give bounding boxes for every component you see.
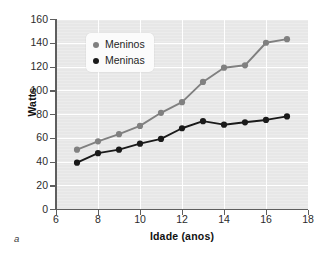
series-line-meninas: [77, 116, 287, 162]
data-point-meninos-14: [221, 65, 227, 71]
legend-item-meninos: Meninos: [93, 38, 145, 51]
data-point-meninas-17: [284, 113, 290, 119]
y-tick-label-140: 140: [22, 37, 48, 47]
gridline-x-18: [308, 19, 309, 209]
data-point-meninos-15: [242, 62, 248, 68]
data-point-meninas-15: [242, 119, 248, 125]
y-tick-20: [50, 185, 55, 186]
data-point-meninas-16: [263, 117, 269, 123]
x-tick-label-12: 12: [171, 214, 193, 225]
legend-label-meninas: Meninas: [105, 55, 145, 66]
legend-item-meninas: Meninas: [93, 54, 145, 67]
data-point-meninas-14: [221, 122, 227, 128]
x-axis-title: Idade (anos): [56, 230, 308, 242]
data-point-meninos-7: [74, 147, 80, 153]
y-tick-40: [50, 162, 55, 163]
data-point-meninos-13: [200, 79, 206, 85]
data-point-meninas-13: [200, 118, 206, 124]
data-point-meninos-16: [263, 40, 269, 46]
legend-label-meninos: Meninos: [105, 39, 145, 50]
data-point-meninas-9: [116, 147, 122, 153]
y-tick-label-160: 160: [22, 14, 48, 24]
y-axis-line: [55, 19, 57, 210]
data-point-meninas-11: [158, 136, 164, 142]
y-tick-160: [50, 19, 55, 20]
data-point-meninas-10: [137, 141, 143, 147]
x-tick-label-6: 6: [45, 214, 67, 225]
x-tick-label-14: 14: [213, 214, 235, 225]
x-tick-label-10: 10: [129, 214, 151, 225]
data-point-meninos-8: [95, 138, 101, 144]
y-tick-60: [50, 138, 55, 139]
y-tick-label-20: 20: [22, 180, 48, 190]
x-tick-label-8: 8: [87, 214, 109, 225]
data-point-meninos-17: [284, 36, 290, 42]
panel-letter: a: [14, 233, 19, 244]
data-point-meninos-9: [116, 131, 122, 137]
y-tick-label-40: 40: [22, 156, 48, 166]
x-tick-label-16: 16: [255, 214, 277, 225]
data-point-meninos-12: [179, 99, 185, 105]
data-point-meninos-10: [137, 123, 143, 129]
chart-figure: 020406080100120140160 681012141618 Watts…: [0, 0, 325, 255]
y-tick-80: [50, 114, 55, 115]
y-tick-120: [50, 67, 55, 68]
chart-legend: Meninos Meninas: [86, 33, 154, 72]
data-point-meninas-8: [95, 150, 101, 156]
y-tick-100: [50, 90, 55, 91]
data-point-meninas-7: [74, 160, 80, 166]
y-tick-label-0: 0: [22, 204, 48, 214]
y-tick-140: [50, 43, 55, 44]
y-tick-0: [50, 209, 55, 210]
legend-marker-meninos: [93, 42, 99, 48]
data-point-meninos-11: [158, 110, 164, 116]
y-axis-title: Watts: [26, 57, 38, 147]
data-point-meninas-12: [179, 125, 185, 131]
x-tick-label-18: 18: [297, 214, 319, 225]
legend-marker-meninas: [93, 58, 99, 64]
